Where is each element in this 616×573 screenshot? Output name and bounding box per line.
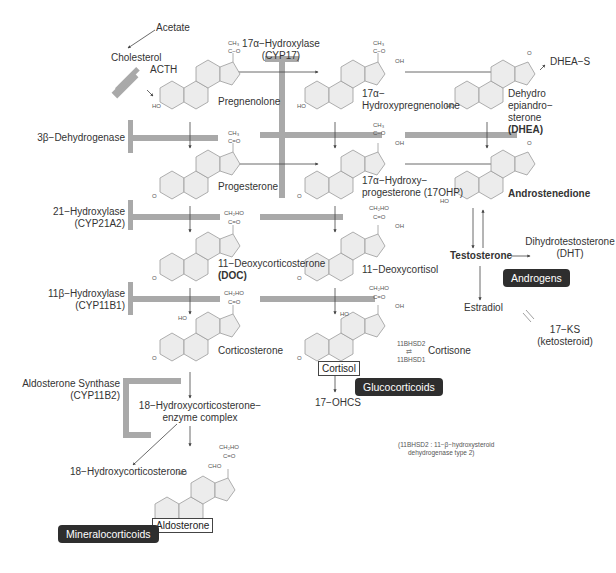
cortisol-oh: OH — [395, 303, 404, 310]
prog-o: O — [152, 193, 157, 200]
dc-co: C=O — [373, 214, 386, 221]
aldo-ch2oh: CH₂HO — [219, 444, 239, 451]
androgens-badge: Androgens — [503, 269, 570, 287]
doc-label: 11−Deoxycorticosterone (DOC) — [218, 258, 325, 282]
doc-ch2oh: CH₂HO — [224, 210, 244, 217]
testosterone-label: Testosterone — [450, 250, 512, 262]
andro-o: O — [527, 140, 532, 147]
cortisol-co: C=O — [373, 294, 386, 301]
enzyme-cyp11b1: 11β−Hydroxylase (CYP11B1) — [20, 288, 125, 312]
pregnenolone-co: C−O — [228, 48, 241, 55]
enzyme-hsd3b: 3β−Dehydrogenase — [20, 132, 125, 144]
hydroxypregnenolone-label: 17α− Hydroxypregnenolone — [362, 88, 460, 112]
cortisone-label: Cortisone — [428, 345, 471, 357]
prog-ch3: CH₃ — [228, 130, 239, 137]
cort-co: C=O — [228, 299, 241, 306]
cyp11b2-code: (CYP11B2) — [10, 390, 120, 402]
ohp-oh: OH — [395, 140, 404, 147]
ohp-ch3: CH₃ — [373, 122, 384, 129]
dc-ch2oh: CH₂HO — [369, 205, 389, 212]
estradiol-label: Estradiol — [464, 302, 503, 314]
cyp11b1-name: 11β−Hydroxylase — [20, 288, 125, 300]
cort-ho: HO — [178, 315, 187, 322]
ohp-co: C−O — [373, 130, 386, 137]
hp-co: C−O — [373, 48, 386, 55]
doc-o: O — [152, 275, 157, 282]
hp-oh: OH — [395, 58, 404, 65]
dht-label: Dihydrotestosterone (DHT) — [520, 236, 616, 260]
acth-label: ACTH — [150, 64, 177, 76]
hsd2-label: 11BHSD2 — [397, 340, 425, 348]
enzyme-bars — [112, 56, 517, 438]
dc-oh: OH — [395, 223, 404, 230]
pregnenolone-ch3: CH₃ — [228, 40, 239, 47]
hcs18-label: 18−Hydroxycorticosterone — [70, 466, 186, 478]
cholesterol-label: Cholesterol — [111, 52, 162, 64]
footnote: (11BHSD2 : 11−β−hydroxysteroid dehydroge… — [398, 441, 494, 457]
progesterone-label: Progesterone — [218, 181, 278, 193]
cyp11b2-name: Aldosterone Synthase — [10, 378, 120, 390]
cort-o: O — [152, 355, 157, 362]
dhea-s-label: DHEA−S — [550, 56, 590, 68]
enzyme-cyp11b2: Aldosterone Synthase (CYP11B2) — [10, 378, 120, 402]
aldo-ho: HO — [178, 470, 187, 477]
cyp17-code: (CYP17) — [236, 50, 326, 62]
cyp17-bar-vertical — [279, 56, 285, 198]
hcs18-complex-label: 18−Hydroxycorticosterone− enzyme complex — [130, 400, 270, 424]
ketosteroid-label: 17−KS (ketosteroid) — [525, 324, 605, 348]
enzyme-cyp21: 21−Hydroxylase (CYP21A2) — [20, 206, 125, 230]
enzyme-cyp17: 17α−Hydroxylase (CYP17) — [236, 38, 326, 62]
aldosterone-label: Aldosterone — [152, 518, 213, 533]
deoxycortisol-label: 11−Deoxycortisol — [362, 264, 438, 276]
mineralocorticoids-badge: Mineralocorticoids — [58, 525, 159, 543]
cyp11b1-code: (CYP11B1) — [20, 300, 125, 312]
ks-arrow — [523, 310, 534, 322]
hsd1-label: 11BHSD1 — [397, 356, 425, 364]
dhea-label: Dehydro epiandro− sterone (DHEA) — [508, 88, 553, 136]
hp-ho: HO — [297, 103, 306, 110]
ohcs-label: 17−OHCS — [315, 397, 361, 409]
cort-ch2oh: CH₂HO — [224, 290, 244, 297]
andro-ho: HO — [440, 198, 449, 205]
corticosterone-label: Corticosterone — [218, 345, 283, 357]
acetate-label: Acetate — [156, 22, 190, 34]
cortisol-ch2oh: CH₂HO — [369, 285, 389, 292]
cortisol-o: O — [297, 355, 302, 362]
pregnenolone-label: Pregnenolone — [218, 96, 280, 108]
dhea-o: O — [527, 50, 532, 57]
androstenedione-label: Androstenedione — [508, 188, 590, 200]
pregnenolone-ho: HO — [152, 103, 161, 110]
hp-ch3: CH₃ — [373, 40, 384, 47]
hsd-interconvert-icon: ⇄ — [406, 348, 412, 356]
doc-co: C=O — [228, 219, 241, 226]
cortisol-ho: HO — [340, 311, 349, 318]
glucocorticoids-badge: Glucocorticoids — [355, 378, 443, 396]
prog-co: C=O — [228, 138, 241, 145]
cyp21-code: (CYP21A2) — [20, 218, 125, 230]
ohp-o: O — [297, 193, 302, 200]
aldo-cho: CHO — [208, 463, 221, 470]
ohp-label: 17α−Hydroxy− progesterone (17OHP) — [362, 175, 463, 199]
cyp21-name: 21−Hydroxylase — [20, 206, 125, 218]
cyp17-name: 17α−Hydroxylase — [236, 38, 326, 50]
aldo-co: C=O — [223, 453, 236, 460]
cortisol-label: Cortisol — [318, 361, 360, 376]
